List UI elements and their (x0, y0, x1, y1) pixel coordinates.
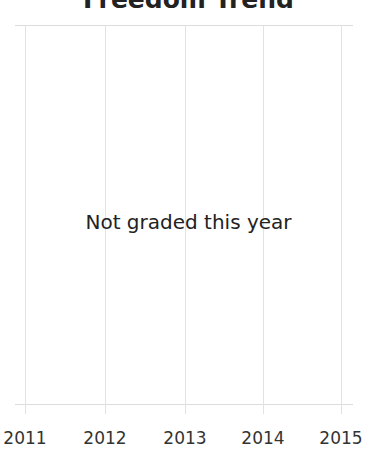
x-axis-line (15, 404, 353, 405)
chart-title: Freedom Trend (0, 0, 377, 14)
x-tick-label: 2012 (75, 428, 135, 448)
not-graded-message: Not graded this year (0, 210, 377, 234)
x-tick-label: 2011 (0, 428, 55, 448)
x-tick-label: 2014 (233, 428, 293, 448)
x-tick-label: 2015 (311, 428, 371, 448)
x-tick-label: 2013 (155, 428, 215, 448)
top-gridline (15, 25, 353, 26)
